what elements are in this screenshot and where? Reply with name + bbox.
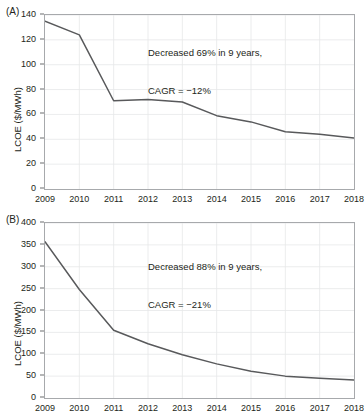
- chart-panel-b: (B) LCOE ($/MWh) 05010015020025030035040…: [0, 208, 363, 418]
- x-tick-label: 2011: [104, 194, 123, 204]
- chart-panel-a: (A) LCOE ($/MWh) 020406080100120140 2009…: [0, 0, 363, 208]
- annotation-a-line2: CAGR = −12%: [148, 85, 262, 98]
- x-tick-label: 2017: [310, 403, 330, 413]
- y-tick-label: 200: [21, 305, 42, 315]
- x-tick-label: 2010: [69, 403, 89, 413]
- x-axis-ticks-a: 2009201020112012201320142015201620172018: [44, 192, 355, 208]
- x-tick-label: 2009: [35, 194, 55, 204]
- x-tick-label: 2014: [207, 403, 227, 413]
- y-tick-label: 300: [21, 261, 42, 271]
- x-tick-label: 2016: [275, 194, 295, 204]
- y-tick-label: 100: [21, 59, 42, 69]
- y-tick-label: 100: [21, 348, 42, 358]
- y-tick-label: 150: [21, 326, 42, 336]
- annotation-b-line1: Decreased 88% in 9 years,: [148, 261, 262, 274]
- y-tick-label: 250: [21, 283, 42, 293]
- x-tick-label: 2018: [344, 194, 364, 204]
- x-tick-label: 2013: [172, 403, 192, 413]
- x-tick-label: 2017: [310, 194, 330, 204]
- annotation-a: Decreased 69% in 9 years, CAGR = −12%: [148, 22, 262, 122]
- y-axis-ticks-a: 020406080100120140: [0, 14, 42, 190]
- x-tick-label: 2010: [69, 194, 89, 204]
- y-tick-label: 140: [21, 9, 42, 19]
- annotation-b-line2: CAGR = −21%: [148, 299, 262, 312]
- annotation-a-line1: Decreased 69% in 9 years,: [148, 47, 262, 60]
- x-tick-label: 2016: [275, 403, 295, 413]
- x-tick-label: 2012: [138, 403, 158, 413]
- x-tick-label: 2009: [35, 403, 55, 413]
- x-tick-label: 2015: [241, 194, 261, 204]
- x-tick-label: 2015: [241, 403, 261, 413]
- y-tick-label: 350: [21, 239, 42, 249]
- x-tick-label: 2014: [207, 194, 227, 204]
- x-tick-label: 2018: [344, 403, 364, 413]
- x-axis-ticks-b: 2009201020112012201320142015201620172018: [44, 401, 355, 417]
- x-tick-label: 2013: [172, 194, 192, 204]
- y-tick-label: 400: [21, 217, 42, 227]
- x-tick-label: 2011: [104, 403, 123, 413]
- x-tick-label: 2012: [138, 194, 158, 204]
- y-tick-label: 120: [21, 34, 42, 44]
- y-axis-ticks-b: 050100150200250300350400: [0, 222, 42, 399]
- annotation-b: Decreased 88% in 9 years, CAGR = −21%: [148, 236, 262, 336]
